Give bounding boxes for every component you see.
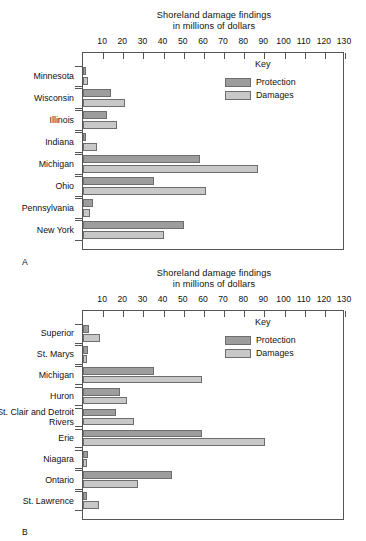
panel-b-cattick-top-5 [75, 429, 83, 430]
panel-a-xtick-10: 10 [97, 36, 107, 46]
protection-swatch-icon [225, 78, 251, 87]
panel-b-xtick-50: 50 [178, 294, 188, 304]
panel-b-tickmark-40 [164, 311, 165, 317]
panel-a-category-label: Ohio [55, 181, 74, 191]
panel-a-plot-area: Key Protection Damages MinnesotaWisconsi… [82, 52, 344, 250]
panel-a-bar-damages [83, 187, 206, 195]
panel-a-xtick-30: 30 [138, 36, 148, 46]
panel-a-bar-protection [83, 89, 111, 97]
panel-b-category-label: Ontario [45, 475, 74, 485]
panel-b-x-axis-tick-labels: 102030405060708090100110120130 [0, 294, 366, 306]
panel-b-cattick-bottom-8 [75, 510, 83, 511]
panel-a-key-row-damages: Damages [225, 90, 294, 100]
panel-a-bar-damages [83, 99, 125, 107]
panel-a-bar-damages [83, 77, 88, 85]
panel-b-bar-damages [83, 480, 138, 488]
panel-a-category-label: Indiana [45, 137, 74, 147]
panel-b-bar-protection [83, 409, 116, 417]
panel-b-xtick-80: 80 [238, 294, 248, 304]
panel-b-cattick-bottom-0 [75, 343, 83, 344]
panel-a-tickmark-80 [244, 53, 245, 59]
panel-a-cattick-bottom-0 [75, 86, 83, 87]
panel-b-cattick-top-8 [75, 491, 83, 492]
panel-a-cattick-bottom-2 [75, 130, 83, 131]
panel-a-cattick-top-0 [75, 66, 83, 67]
panel-a-key: Key Protection Damages [211, 57, 339, 105]
panel-a-tickmark-30 [143, 53, 144, 59]
panel-a-cattick-bottom-5 [75, 196, 83, 197]
panel-a-tickmark-70 [224, 53, 225, 59]
panel-a-xtick-60: 60 [198, 36, 208, 46]
panel-a-xtick-80: 80 [238, 36, 248, 46]
panel-a-xtick-20: 20 [118, 36, 128, 46]
panel-a-cattick-top-6 [75, 198, 83, 199]
panel-b-cattick-top-4 [75, 408, 83, 409]
panel-a-cattick-bottom-1 [75, 108, 83, 109]
panel-b-category-label: Michigan [39, 370, 74, 380]
panel-b-key-label-damages: Damages [256, 348, 294, 358]
panel-b-tickmark-100 [285, 311, 286, 317]
panel-a-cattick-top-1 [75, 88, 83, 89]
panel-b-xtick-20: 20 [118, 294, 128, 304]
panel-b-bar-damages [83, 355, 87, 363]
panel-a-bar-protection [83, 67, 86, 75]
panel-a-xtick-120: 120 [317, 36, 331, 46]
panel-b-tickmark-30 [143, 311, 144, 317]
panel-b-tickmark-120 [325, 311, 326, 317]
panel-b-letter: B [22, 527, 28, 537]
panel-b-tickmark-80 [244, 311, 245, 317]
panel-a-xtick-100: 100 [276, 36, 290, 46]
panel-a-xtick-50: 50 [178, 36, 188, 46]
panel-b-cattick-bottom-5 [75, 447, 83, 448]
panel-b-cattick-top-2 [75, 366, 83, 367]
panel-a-key-title: Key [255, 59, 271, 69]
panel-b-tickmark-20 [123, 311, 124, 317]
panel-a-cattick-top-5 [75, 176, 83, 177]
panel-a-cattick-bottom-6 [75, 218, 83, 219]
panel-b-category-label: St. Marys [37, 349, 74, 359]
panel-a-cattick-top-4 [75, 154, 83, 155]
panel-b-xtick-30: 30 [138, 294, 148, 304]
panel-b-key-label-protection: Protection [256, 335, 296, 345]
panel-a-tickmark-120 [325, 53, 326, 59]
panel-b-tickmark-70 [224, 311, 225, 317]
panel-b-cattick-bottom-2 [75, 384, 83, 385]
panel-b-bar-damages [83, 334, 100, 342]
panel-b-bar-damages [83, 397, 127, 405]
panel-b-xtick-40: 40 [158, 294, 168, 304]
damages-swatch-icon [225, 91, 251, 100]
panel-a-title-line2: in millions of dollars [83, 21, 345, 32]
panel-b-xtick-100: 100 [276, 294, 290, 304]
panel-a-tickmark-10 [103, 53, 104, 59]
panel-b-bar-damages [83, 418, 134, 426]
panel-b-key-row-damages: Damages [225, 348, 294, 358]
panel-a-tickmark-130 [345, 53, 346, 59]
panel-b-bar-protection [83, 325, 89, 333]
panel-b-cattick-top-0 [75, 324, 83, 325]
panel-b-plot-area: Key Protection Damages SuperiorSt. Marys… [82, 310, 344, 520]
panel-a-cattick-bottom-3 [75, 152, 83, 153]
panel-a-bar-damages [83, 231, 164, 239]
panel-a-category-label: Michigan [39, 159, 74, 169]
panel-a-key-label-damages: Damages [256, 90, 294, 100]
panel-b-category-label: St. Clair and Detroit Rivers [0, 407, 74, 427]
panel-a-key-label-protection: Protection [256, 77, 296, 87]
panel-b-cattick-top-7 [75, 470, 83, 471]
panel-b-xtick-110: 110 [297, 294, 311, 304]
panel-a-bar-damages [83, 121, 117, 129]
panel-b-xtick-130: 130 [337, 294, 351, 304]
panel-b-tickmark-60 [204, 311, 205, 317]
panel-b-xtick-60: 60 [198, 294, 208, 304]
panel-b-cattick-top-3 [75, 387, 83, 388]
panel-a-bar-protection [83, 221, 184, 229]
panel-b-figure: Shoreland damage findings in millions of… [0, 262, 366, 541]
panel-a-xtick-130: 130 [337, 36, 351, 46]
panel-a-tickmark-110 [305, 53, 306, 59]
panel-b-cattick-top-6 [75, 450, 83, 451]
panel-b-tickmark-110 [305, 311, 306, 317]
panel-a-bar-damages [83, 165, 258, 173]
panel-b-cattick-top-1 [75, 345, 83, 346]
panel-b-tickmark-130 [345, 311, 346, 317]
panel-a-xtick-110: 110 [297, 36, 311, 46]
panel-a-cattick-top-7 [75, 220, 83, 221]
